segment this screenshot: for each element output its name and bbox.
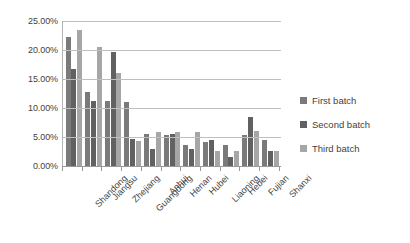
bar (111, 52, 116, 166)
bar (71, 69, 76, 166)
legend-label: Third batch (312, 143, 360, 154)
bar (91, 101, 96, 166)
gridline (63, 108, 281, 109)
bar-group (143, 21, 163, 166)
bar (268, 151, 273, 166)
bar (274, 151, 279, 166)
gridline (63, 79, 281, 80)
bar (203, 142, 208, 166)
legend-item[interactable]: Third batch (300, 143, 408, 154)
bar (189, 149, 194, 166)
bar (116, 73, 121, 166)
bar-group (84, 21, 104, 166)
y-tick-label: 0.00% (33, 161, 58, 171)
bar (170, 134, 175, 166)
legend-item[interactable]: First batch (300, 95, 408, 106)
bar (228, 157, 233, 166)
bar (254, 131, 259, 166)
bar (164, 135, 169, 166)
bar-group (201, 21, 221, 166)
bar-group (221, 21, 241, 166)
bar (183, 145, 188, 166)
bar (150, 149, 155, 166)
bar-group (241, 21, 261, 166)
bar (242, 135, 247, 166)
legend-item[interactable]: Second batch (300, 119, 408, 130)
bar-group (162, 21, 182, 166)
bar (234, 151, 239, 166)
bar-group (260, 21, 280, 166)
gridline (63, 21, 281, 22)
bar (105, 101, 110, 166)
legend-label: Second batch (312, 119, 370, 130)
bar (97, 47, 102, 166)
bar (248, 117, 253, 166)
bar-group (123, 21, 143, 166)
bar (130, 139, 135, 166)
bar (262, 140, 267, 166)
bar-group (64, 21, 84, 166)
bar-group (182, 21, 202, 166)
legend-swatch-icon (300, 97, 307, 104)
legend-swatch-icon (300, 121, 307, 128)
gridline (63, 50, 281, 51)
bar (215, 151, 220, 166)
y-tick-label: 15.00% (28, 74, 58, 84)
x-axis-label: Fujian (266, 173, 290, 197)
plot-wrapper: 0.00%5.00%10.00%15.00%20.00%25.00% Shand… (0, 0, 300, 243)
bar (223, 145, 228, 166)
bar (136, 141, 141, 166)
plot-area (62, 21, 281, 167)
bar (85, 92, 90, 166)
gridline (63, 137, 281, 138)
legend-label: First batch (312, 95, 356, 106)
chart-legend: First batchSecond batchThird batch (300, 95, 408, 167)
legend-swatch-icon (300, 145, 307, 152)
bar-chart: 0.00%5.00%10.00%15.00%20.00%25.00% Shand… (0, 0, 410, 243)
bar (124, 102, 129, 166)
bar-groups (63, 21, 281, 166)
y-tick-label: 25.00% (28, 16, 58, 26)
x-axis-label: Shanxi (287, 173, 314, 200)
y-tick-label: 20.00% (28, 45, 58, 55)
y-tick-label: 5.00% (33, 132, 58, 142)
bar (66, 37, 71, 166)
bar-group (103, 21, 123, 166)
bar (209, 140, 214, 166)
bar (144, 134, 149, 166)
y-axis: 0.00%5.00%10.00%15.00%20.00%25.00% (8, 14, 58, 166)
y-tick-label: 10.00% (28, 103, 58, 113)
x-axis-labels: ShandongJiangsuZhejiangGuangdongAnhuiHen… (62, 171, 280, 241)
